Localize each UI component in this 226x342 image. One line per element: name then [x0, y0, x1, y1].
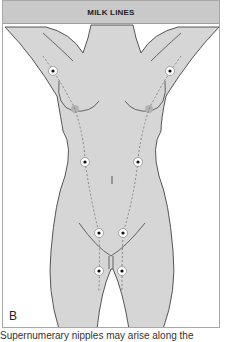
- marker-right-thigh: [118, 267, 127, 276]
- marker-left-thigh: [95, 267, 104, 276]
- marker-right-abdomen: [134, 158, 143, 167]
- panel-label: B: [9, 309, 17, 323]
- marker-right-groin: [119, 229, 128, 238]
- marker-left-groin: [95, 229, 104, 238]
- marker-left-abdomen: [81, 158, 90, 167]
- figure-frame: MILK LINES B: [2, 0, 220, 328]
- body-illustration: [3, 1, 220, 328]
- marker-left-axilla: [49, 67, 58, 76]
- marker-right-axilla: [166, 67, 175, 76]
- figure-caption: Supernumerary nipples may arise along th…: [0, 330, 226, 341]
